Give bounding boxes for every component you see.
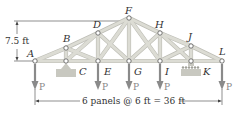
arrow-down-icon — [95, 81, 102, 90]
node-label-B: B — [62, 33, 70, 44]
node-K — [189, 59, 193, 63]
roller-icon — [182, 66, 184, 68]
node-J — [189, 44, 193, 48]
arrow-down-icon — [32, 81, 39, 90]
node-label-E: E — [103, 66, 112, 77]
node-label-J: J — [186, 31, 193, 42]
node-D — [96, 31, 100, 35]
node-H — [158, 31, 162, 35]
node-labels: ABCDEFGHIJKL — [26, 5, 226, 77]
node-A — [33, 59, 37, 63]
node-label-D: D — [92, 19, 101, 30]
node-label-L: L — [218, 46, 226, 57]
node-label-I: I — [164, 66, 170, 77]
arrow-down-icon — [157, 81, 164, 90]
node-E — [96, 59, 100, 63]
node-label-G: G — [134, 66, 142, 77]
node-label-H: H — [154, 19, 164, 30]
roller-icon — [188, 66, 190, 68]
node-B — [64, 46, 68, 50]
member-JL — [191, 46, 222, 61]
roller-icon — [185, 66, 187, 68]
node-label-K: K — [202, 66, 211, 77]
arrow-down-icon — [126, 81, 133, 90]
pin-support-icon — [61, 63, 71, 69]
node-L — [220, 59, 224, 63]
load-label-I: P — [164, 82, 170, 92]
roller-support-base — [181, 69, 201, 76]
load-label-A: P — [39, 82, 45, 92]
node-F — [127, 16, 131, 20]
arrowhead-left-icon — [35, 100, 39, 103]
roller-icon — [197, 66, 199, 68]
roller-icon — [191, 66, 193, 68]
node-G — [127, 59, 131, 63]
height-dimension-label: 7.5 ft — [5, 36, 30, 46]
node-I — [158, 59, 162, 63]
node-label-F: F — [124, 5, 133, 16]
roller-icon — [194, 66, 196, 68]
truss-diagram: 7.5 ft 6 panels @ 6 ft = 36 ft PPPPP ABC… — [0, 0, 238, 122]
node-C — [64, 59, 68, 63]
arrowhead-up-icon — [16, 21, 19, 25]
node-label-C: C — [79, 66, 87, 77]
arrowhead-right-icon — [218, 100, 222, 103]
arrowhead-down-icon — [16, 57, 19, 61]
arrow-down-icon — [219, 81, 226, 90]
load-label-E: P — [102, 82, 108, 92]
pin-support-base — [56, 69, 76, 77]
span-dimension-label: 6 panels @ 6 ft = 36 ft — [82, 96, 185, 106]
load-label-L: P — [226, 82, 232, 92]
node-label-A: A — [26, 48, 34, 59]
load-label-G: P — [133, 82, 139, 92]
loads: PPPPP — [32, 64, 233, 92]
